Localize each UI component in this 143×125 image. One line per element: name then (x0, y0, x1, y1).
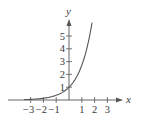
x-tick-label: 3 (105, 104, 110, 115)
x-tick-label: 2 (92, 104, 97, 115)
x-axis-label: x (125, 93, 131, 105)
x-axis-arrow-icon (116, 98, 123, 103)
exponential-chart: −3−2−112312345 x y (0, 0, 143, 125)
y-axis-arrow-icon (67, 19, 72, 26)
y-tick-label: 3 (60, 56, 65, 67)
ticks: −3−2−112312345 (23, 31, 110, 116)
x-tick-label: −1 (49, 104, 60, 115)
y-tick-label: 4 (60, 43, 66, 54)
y-tick-label: 2 (60, 69, 65, 80)
y-axis-label: y (65, 5, 71, 17)
y-tick-label: 5 (60, 31, 65, 42)
x-tick-label: −2 (36, 104, 47, 115)
x-tick-label: −3 (23, 104, 34, 115)
curve-e-to-x (24, 23, 92, 100)
x-tick-label: 1 (79, 104, 84, 115)
